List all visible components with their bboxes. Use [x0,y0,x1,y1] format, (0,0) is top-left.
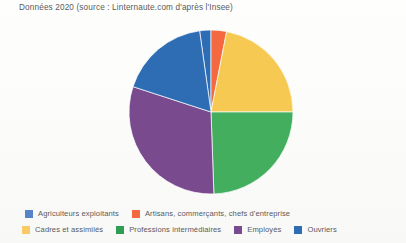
legend-item-cadres-et-assimiles[interactable]: Cadres et assimilés [22,226,103,234]
pie-plot-area [0,22,406,202]
legend-label: Ouvriers [307,226,337,234]
legend-label: Agriculteurs exploitants [38,210,119,218]
legend-swatch-icon [132,210,140,218]
pie-chart-figure: Données 2020 (source : Linternaute.com d… [0,0,406,243]
legend-item-professions-intermediaires[interactable]: Professions intermédiaires [116,226,221,234]
pie-slice[interactable] [211,112,293,194]
legend-row-2: Cadres et assimilés Professions interméd… [0,222,406,238]
pie-svg [0,22,406,202]
legend-swatch-icon [25,210,33,218]
pie-slice-group [129,30,293,194]
chart-legend: Agriculteurs exploitants Artisans, comme… [0,206,406,243]
legend-item-ouvriers[interactable]: Ouvriers [294,226,337,234]
chart-title: Données 2020 (source : Linternaute.com d… [19,3,233,12]
legend-row-1: Agriculteurs exploitants Artisans, comme… [0,206,406,222]
legend-label: Professions intermédiaires [129,226,221,234]
legend-label: Artisans, commerçants, chefs d'entrepris… [145,210,290,218]
legend-item-employes[interactable]: Employés [234,226,281,234]
legend-label: Employés [247,226,281,234]
legend-swatch-icon [116,226,124,234]
legend-item-agriculteurs-exploitants[interactable]: Agriculteurs exploitants [25,210,119,218]
legend-swatch-icon [294,226,302,234]
legend-swatch-icon [22,226,30,234]
legend-swatch-icon [234,226,242,234]
legend-label: Cadres et assimilés [35,226,103,234]
legend-item-artisans-commercants-chefs-entreprise[interactable]: Artisans, commerçants, chefs d'entrepris… [132,210,290,218]
